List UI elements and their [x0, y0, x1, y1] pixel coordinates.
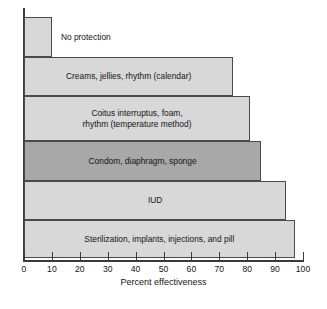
bar	[24, 220, 295, 258]
x-axis-tick-label: 70	[215, 264, 225, 274]
bar-row: IUD	[24, 181, 303, 220]
x-axis-tick	[80, 252, 81, 260]
bar	[24, 181, 286, 220]
chart-plot-area: No protectionCreams, jellies, rhythm (ca…	[0, 0, 327, 265]
x-axis-tick	[136, 252, 137, 260]
x-axis-tick-label: 80	[242, 264, 252, 274]
x-axis-tick-label: 30	[103, 264, 113, 274]
x-axis-tick	[303, 252, 304, 260]
bar-row: Condom, diaphragm, sponge	[24, 141, 303, 181]
x-axis-tick-label: 0	[22, 264, 27, 274]
x-axis-tick-label: 90	[270, 264, 280, 274]
x-axis-tick-label: 20	[75, 264, 85, 274]
figure-caption-strip	[22, 298, 282, 309]
figure-container: No protectionCreams, jellies, rhythm (ca…	[0, 0, 327, 309]
bar-row: No protection	[24, 17, 303, 57]
bar	[24, 96, 250, 141]
bar-row: Creams, jellies, rhythm (calendar)	[24, 57, 303, 96]
x-axis-tick-label: 10	[47, 264, 57, 274]
x-axis-tick-label: 40	[131, 264, 141, 274]
x-axis-tick	[24, 252, 25, 260]
x-axis-tick	[275, 252, 276, 260]
x-axis-tick	[219, 252, 220, 260]
bar-row: Coitus interruptus, foam, rhythm (temper…	[24, 96, 303, 141]
bar	[24, 57, 233, 96]
x-axis-tick-label: 60	[187, 264, 197, 274]
x-axis-tick-label: 50	[159, 264, 169, 274]
x-axis-tick-label: 100	[296, 264, 310, 274]
x-axis-line	[23, 260, 304, 262]
bar-label: No protection	[61, 17, 111, 57]
bar	[24, 17, 52, 57]
x-axis-tick	[52, 252, 53, 260]
x-axis-tick	[164, 252, 165, 260]
x-axis-tick	[191, 252, 192, 260]
bar	[24, 141, 261, 181]
x-axis-tick	[247, 252, 248, 260]
x-axis-tick	[108, 252, 109, 260]
x-axis-title: Percent effectiveness	[0, 277, 327, 287]
